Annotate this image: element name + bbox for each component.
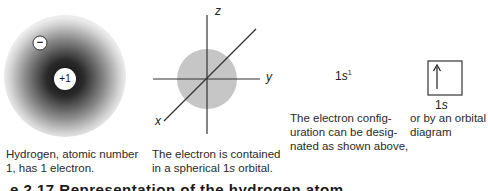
caption-orbital-diagram: or by an orbital diagram (410, 111, 486, 139)
caption-line: uration can be desig- (290, 125, 408, 139)
caption-line: diagram (410, 125, 486, 139)
electron-configuration: 1s1 (335, 66, 352, 83)
caption-line: nated as shown above, (290, 139, 408, 153)
caption-line: 1, has 1 electron. (6, 161, 138, 175)
caption-line: The electron config- (290, 111, 408, 125)
caption-hydrogen: Hydrogen, atomic number 1, has 1 electro… (6, 147, 138, 175)
orbital-box (428, 61, 462, 95)
caption-line: Hydrogen, atomic number (6, 147, 138, 161)
figure-caption: e 2.17 Representation of the hydrogen at… (10, 181, 344, 191)
caption-line: or by an orbital (410, 111, 486, 125)
electron-charge-label: − (34, 35, 46, 49)
orbital-label: 1s (435, 98, 448, 112)
nucleus-charge-label: +1 (54, 72, 76, 86)
caption-configuration: The electron config- uration can be desi… (290, 111, 408, 153)
caption-orbital: The electron is contained in a spherical… (152, 147, 281, 175)
axis-label-z: z (215, 4, 221, 18)
caption-line: The electron is contained (152, 147, 281, 161)
axis-label-x: x (155, 114, 161, 128)
axis-label-y: y (266, 70, 272, 84)
caption-line: in a spherical 1s orbital. (152, 161, 281, 175)
